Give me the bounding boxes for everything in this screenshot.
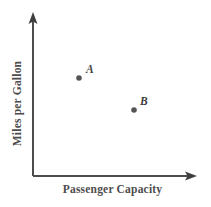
scatter-plot-figure: A B Passenger Capacity Miles per Gallon: [0, 0, 211, 207]
data-point-a: [76, 75, 82, 81]
data-points-group: [76, 75, 137, 113]
data-point-b-label: B: [140, 95, 148, 107]
data-point-b: [131, 107, 137, 113]
axes-group: [29, 12, 198, 181]
x-axis-label: Passenger Capacity: [0, 183, 211, 195]
y-axis-label: Miles per Gallon: [8, 0, 26, 207]
data-point-a-label: A: [86, 63, 94, 75]
plot-canvas: [0, 0, 211, 207]
